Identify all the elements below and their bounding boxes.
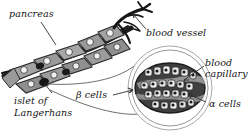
label-pancreas: pancreas xyxy=(9,8,54,19)
label-blood-capillary-line2: capillary xyxy=(205,68,248,79)
pancreas-organ xyxy=(2,25,131,93)
pancreas-islet-diagram: pancreas blood vessel blood capillary α … xyxy=(0,0,251,133)
leader-pancreas xyxy=(41,22,56,45)
label-blood-capillary: blood capillary xyxy=(205,57,248,79)
islet-cells-center xyxy=(145,90,188,98)
label-blood-vessel: blood vessel xyxy=(146,27,206,38)
label-islet-line2: Langerhans xyxy=(14,107,72,119)
label-islet-of-langerhans: islet of Langerhans xyxy=(14,95,72,119)
magnified-islet-inset xyxy=(128,46,212,130)
label-islet-line1: islet of xyxy=(14,95,72,107)
label-beta-cells: β cells xyxy=(76,89,107,100)
label-blood-capillary-line1: blood xyxy=(205,57,248,68)
label-alpha-cells: α cells xyxy=(209,98,241,109)
